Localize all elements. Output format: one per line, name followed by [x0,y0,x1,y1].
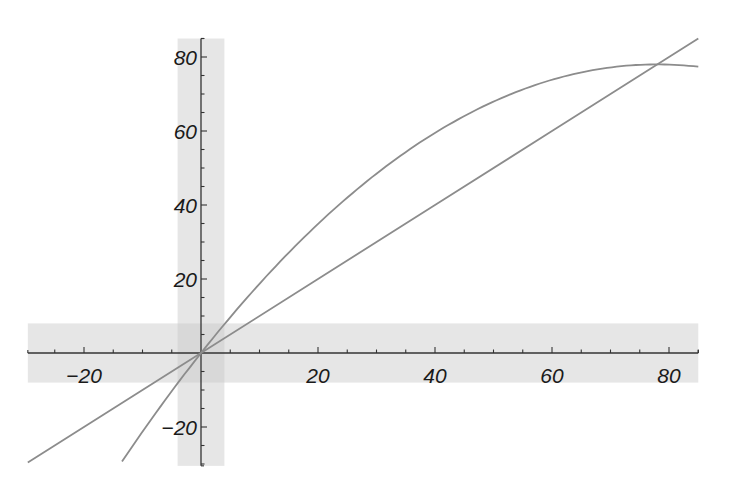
x-tick-label: 20 [305,364,330,387]
y-tick-label: −20 [161,416,197,439]
x-tick-label: 80 [657,364,681,387]
x-tick-label: 40 [423,364,447,387]
identity-line [28,39,699,463]
y-tick-label: 20 [173,268,198,291]
y-tick-label: 60 [174,120,198,143]
data-series [28,39,699,463]
x-tick-label: −20 [66,364,102,387]
chart-plot: −2020406080−2020406080 [0,0,734,487]
axis-ticks [55,39,699,465]
x-tick-label: 60 [540,364,564,387]
y-tick-label: 40 [174,194,198,217]
y-tick-label: 80 [174,46,198,69]
